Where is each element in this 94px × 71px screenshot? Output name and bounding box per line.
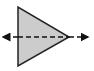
triangle-diagram bbox=[0, 0, 94, 71]
